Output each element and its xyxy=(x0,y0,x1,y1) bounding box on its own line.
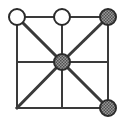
graph-edge xyxy=(62,62,108,108)
graph-edge xyxy=(17,62,62,108)
graph-edge xyxy=(17,17,62,62)
graph-figure xyxy=(0,0,124,123)
graph-node-bottom-right[interactable] xyxy=(100,100,116,116)
graph-node-top-center[interactable] xyxy=(54,9,70,25)
graph-canvas xyxy=(0,0,124,123)
graph-node-top-left[interactable] xyxy=(9,9,25,25)
graph-edge xyxy=(62,17,108,62)
graph-node-center[interactable] xyxy=(54,54,70,70)
graph-node-top-right[interactable] xyxy=(100,9,116,25)
